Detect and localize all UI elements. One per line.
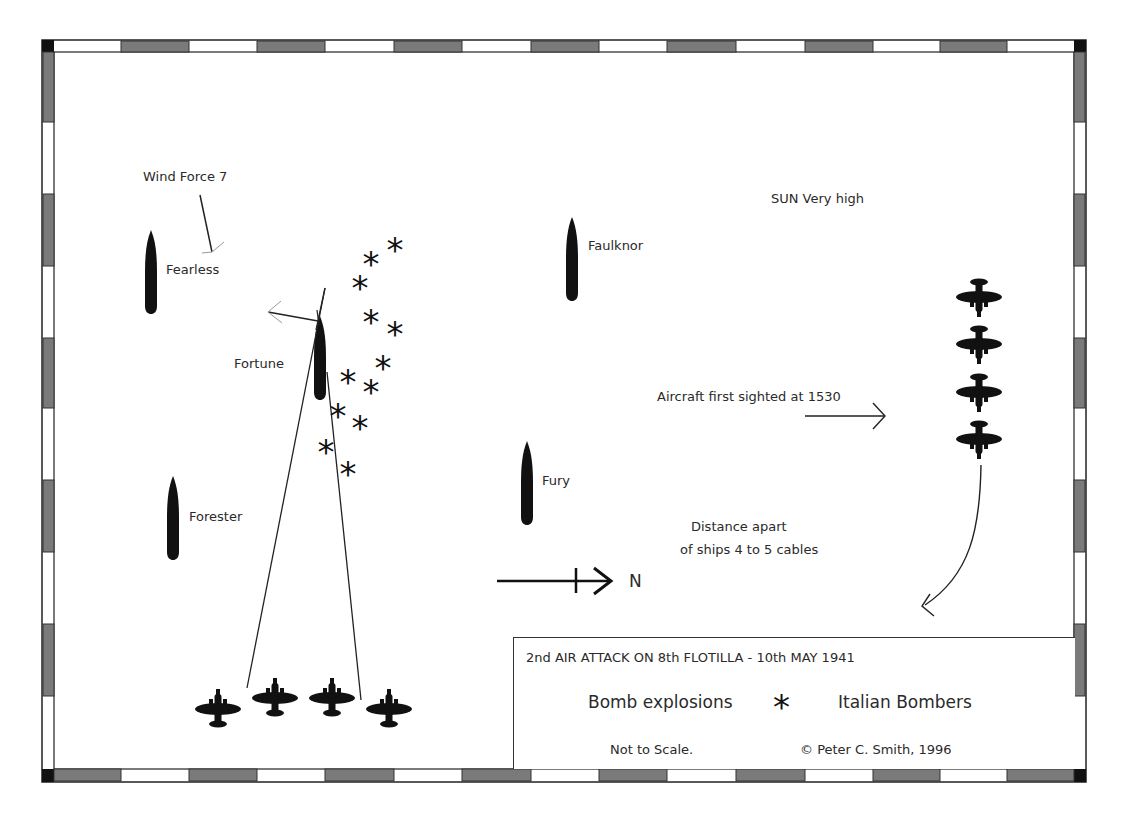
incoming-bomber-formation — [956, 279, 1002, 460]
svg-text:*: * — [363, 372, 380, 412]
distance-label-line2: of ships 4 to 5 cables — [680, 542, 818, 557]
north-arrow-icon — [497, 568, 610, 593]
sun-label: SUN Very high — [771, 191, 864, 206]
ship-label-fury: Fury — [542, 473, 570, 488]
svg-text:*: * — [352, 408, 369, 448]
wind-arrow-icon — [200, 195, 224, 253]
ship-label-fearless: Fearless — [166, 262, 219, 277]
svg-text:*: * — [387, 230, 404, 270]
tactical-diagram: * * * * * * * * * * * * — [0, 0, 1125, 818]
legend-bomb-symbol-icon: * — [773, 690, 790, 724]
sighting-arrow-icon — [805, 403, 885, 429]
ship-label-fortune: Fortune — [234, 356, 284, 371]
legend-bomber-label: Italian Bombers — [838, 692, 972, 712]
svg-text:*: * — [363, 302, 380, 342]
north-label: N — [629, 571, 642, 591]
ship-label-faulknor: Faulknor — [588, 238, 643, 253]
copyright-note: © Peter C. Smith, 1996 — [800, 742, 952, 757]
svg-text:*: * — [318, 432, 335, 472]
legend-title: 2nd AIR ATTACK ON 8th FLOTILLA - 10th MA… — [526, 650, 855, 665]
legend-bomb-label: Bomb explosions — [588, 692, 733, 712]
wind-label: Wind Force 7 — [143, 169, 227, 184]
attacking-bomber-formation — [195, 678, 412, 728]
ship-fearless-icon — [145, 230, 157, 314]
aircraft-sighted-label: Aircraft first sighted at 1530 — [657, 389, 841, 404]
fortune-heading-arrow-icon — [268, 301, 319, 325]
bomb-sightlines — [247, 288, 361, 700]
approach-curve-arrow-icon — [922, 465, 981, 616]
ship-faulknor-icon — [566, 217, 578, 301]
scale-note: Not to Scale. — [610, 742, 693, 757]
distance-label-line1: Distance apart — [691, 519, 787, 534]
ship-fury-icon — [521, 441, 533, 525]
bomb-explosions: * * * * * * * * * * * * — [318, 230, 404, 494]
svg-text:*: * — [340, 454, 357, 494]
svg-text:*: * — [330, 396, 347, 436]
ship-forester-icon — [167, 476, 179, 560]
ship-label-forester: Forester — [189, 509, 242, 524]
